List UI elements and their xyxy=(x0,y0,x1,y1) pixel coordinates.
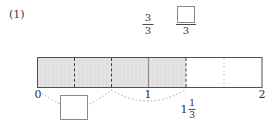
fraction-denominator: 3 xyxy=(144,25,152,36)
arc-box-to-two-thirds xyxy=(89,91,110,104)
tick-label-one-and-one-third: 1 1 3 xyxy=(181,99,196,120)
fraction-denominator: 3 xyxy=(182,25,190,36)
mixed-fraction-part: 1 3 xyxy=(189,99,196,120)
fraction-blank-over-three: 3 xyxy=(176,6,196,36)
fraction-numerator: 3 xyxy=(144,13,152,24)
mixed-denominator: 3 xyxy=(189,111,195,120)
shaded-region xyxy=(38,58,187,88)
tick-label-one: 1 xyxy=(145,89,152,100)
mixed-whole-part: 1 xyxy=(181,104,188,115)
arc-zero-to-box xyxy=(39,91,60,104)
mixed-numerator: 1 xyxy=(189,99,195,108)
tick-label-zero: 0 xyxy=(35,89,42,100)
worksheet-figure: (1) xyxy=(0,0,276,122)
number-line-diagram xyxy=(0,0,276,122)
numerator-answer-box[interactable] xyxy=(177,6,195,23)
fraction-three-thirds: 3 3 xyxy=(143,13,154,36)
tick-label-two: 2 xyxy=(259,89,266,100)
bottom-answer-box[interactable] xyxy=(60,95,88,120)
